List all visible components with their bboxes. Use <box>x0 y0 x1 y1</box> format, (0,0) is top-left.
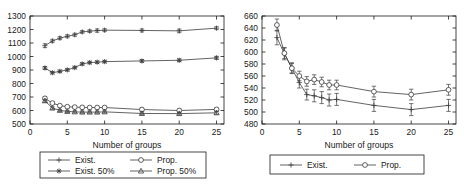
legend-label: Exist. <box>307 160 327 170</box>
data-point-marker <box>50 70 55 75</box>
x-tick-label: 15 <box>369 127 379 137</box>
data-point-marker <box>65 67 70 72</box>
legend-label: Exist. 50% <box>75 166 115 176</box>
x-tick-label: 5 <box>65 127 70 137</box>
x-tick-label: 10 <box>100 127 110 137</box>
data-point-marker <box>334 83 339 88</box>
data-point-marker <box>446 103 451 108</box>
x-axis-title: Number of groups <box>325 140 394 150</box>
x-tick-label: 20 <box>175 127 185 137</box>
series-line-prop <box>277 25 449 95</box>
y-tick-label: 600 <box>12 106 26 116</box>
data-point-marker <box>371 103 376 108</box>
data-point-marker <box>312 93 317 98</box>
data-point-marker <box>319 95 324 100</box>
data-point-marker <box>87 29 92 34</box>
y-tick-label: 560 <box>244 71 258 81</box>
y-tick-label: 800 <box>12 79 26 89</box>
y-tick-label: 580 <box>244 59 258 69</box>
series-line-exist <box>277 38 449 110</box>
data-point-marker <box>372 89 377 94</box>
data-point-marker <box>297 74 302 79</box>
right-chart-svg: 4805005205405605806006206406600510152025… <box>232 0 464 190</box>
legend-marker-circle-icon <box>139 158 144 163</box>
data-point-marker <box>304 79 309 84</box>
data-point-marker <box>319 80 324 85</box>
y-tick-label: 1200 <box>7 25 26 35</box>
x-tick-label: 0 <box>28 127 33 137</box>
data-point-marker <box>177 58 182 63</box>
data-point-marker <box>334 97 339 102</box>
data-point-marker <box>102 59 107 64</box>
series-line-exist <box>45 28 217 46</box>
y-tick-label: 1000 <box>7 52 26 62</box>
data-point-marker <box>72 65 77 70</box>
data-point-marker <box>80 29 85 34</box>
legend-marker-plus-icon <box>56 157 61 162</box>
y-tick-label: 1300 <box>7 11 26 21</box>
chart-panel-right: 4805005205405605806006206406600510152025… <box>232 0 464 190</box>
legend-marker-plus-icon <box>288 162 293 167</box>
data-point-marker <box>327 83 332 88</box>
data-point-marker <box>446 87 451 92</box>
y-tick-label: 620 <box>244 35 258 45</box>
legend-label: Exist. <box>75 155 95 165</box>
y-tick-label: 540 <box>244 83 258 93</box>
x-tick-label: 5 <box>297 127 302 137</box>
data-point-marker <box>327 97 332 102</box>
series-line-prop <box>45 98 217 110</box>
legend-label: Prop. <box>381 160 401 170</box>
data-point-marker <box>289 66 294 71</box>
data-point-marker <box>304 92 309 97</box>
figure-container: 5006007008009001000110012001300051015202… <box>0 0 464 190</box>
x-tick-label: 25 <box>212 127 222 137</box>
legend-label: Prop. 50% <box>157 166 197 176</box>
data-point-marker <box>80 61 85 66</box>
x-tick-label: 15 <box>137 127 147 137</box>
y-tick-label: 480 <box>244 119 258 129</box>
series-line-exist-50 <box>45 58 217 73</box>
data-point-marker <box>312 77 317 82</box>
data-point-marker <box>275 23 280 28</box>
y-tick-label: 600 <box>244 47 258 57</box>
data-point-marker <box>57 69 62 74</box>
left-chart-svg: 5006007008009001000110012001300051015202… <box>0 0 232 190</box>
x-tick-label: 10 <box>332 127 342 137</box>
x-tick-label: 20 <box>407 127 417 137</box>
y-tick-label: 520 <box>244 95 258 105</box>
y-tick-label: 640 <box>244 23 258 33</box>
y-tick-label: 1100 <box>8 38 26 48</box>
data-point-marker <box>274 35 279 40</box>
data-point-marker <box>95 60 100 65</box>
chart-panel-left: 5006007008009001000110012001300051015202… <box>0 0 232 190</box>
x-tick-label: 25 <box>444 127 454 137</box>
x-axis-title: Number of groups <box>93 140 162 150</box>
legend-label: Prop. <box>157 155 177 165</box>
y-tick-label: 900 <box>12 65 26 75</box>
data-point-marker <box>214 55 219 60</box>
data-point-marker <box>409 107 414 112</box>
y-tick-label: 700 <box>12 92 26 102</box>
data-point-marker <box>42 65 47 70</box>
x-tick-label: 0 <box>260 127 265 137</box>
y-tick-label: 500 <box>244 107 258 117</box>
y-tick-label: 500 <box>12 119 26 129</box>
legend-marker-star-icon <box>56 168 61 173</box>
data-point-marker <box>139 58 144 63</box>
data-point-marker <box>409 92 414 97</box>
data-point-marker <box>282 51 287 56</box>
y-tick-label: 660 <box>244 11 258 21</box>
legend-marker-circle-icon <box>363 163 368 168</box>
data-point-marker <box>87 60 92 65</box>
